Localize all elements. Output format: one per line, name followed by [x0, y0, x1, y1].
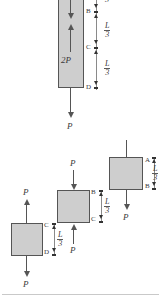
main-bar-tick-D	[94, 81, 98, 85]
figure-canvas: 2P P B C D 3 L 3 L 3 A B L 3	[0, 0, 161, 301]
main-bar-dimension-CD-numerator: L	[104, 60, 110, 68]
main-bar-node-marker-B	[94, 11, 98, 13]
fbd-cd-bottom-force-label: P	[23, 280, 29, 289]
fbd-bc-dimension-numerator: L	[104, 198, 110, 206]
main-bar-upper-internal-arrowhead	[68, 13, 74, 19]
main-bar-bottom-force-arrowhead	[68, 112, 74, 118]
fbd-cd-tick-C	[52, 225, 56, 229]
page-divider-rule	[2, 294, 159, 295]
main-bar-tick-C-upper	[94, 40, 98, 44]
fbd-bc-block	[57, 190, 90, 223]
main-bar-dimension-BC-numerator: L	[104, 22, 110, 30]
fbd-ab-node-label-A: A	[145, 157, 150, 164]
fbd-ab-top-stem	[126, 140, 127, 158]
fbd-cd-bottom-force-arrowhead	[24, 271, 30, 277]
fbd-bc-dimension-denominator: 3	[104, 206, 110, 215]
fbd-ab-bottom-force-label: P	[123, 213, 129, 222]
main-bar-bottom-force-label: P	[67, 122, 73, 131]
fbd-ab-dimension: L 3	[152, 165, 158, 183]
main-bar-tick-B-upper	[94, 4, 98, 8]
fbd-cd-node-marker-D	[52, 254, 56, 256]
main-bar-dimension-CD: L 3	[104, 60, 110, 78]
fbd-cd-dimension: L 3	[57, 231, 63, 249]
fbd-cd-node-label-C: C	[44, 222, 49, 229]
fbd-cd-node-label-D: D	[44, 249, 49, 256]
main-bar-node-label-C: C	[86, 44, 91, 51]
main-bar-partial-top-dimension: 3	[105, 0, 109, 4]
main-bar-dimension-CD-denominator: 3	[104, 68, 110, 77]
fbd-ab-dimension-denominator: 3	[152, 173, 158, 182]
fbd-cd-dimension-denominator: 3	[57, 239, 63, 248]
main-bar-node-label-D: D	[86, 84, 91, 91]
fbd-cd-top-force-line	[26, 203, 27, 223]
fbd-cd-top-force-label: P	[23, 188, 29, 197]
fbd-cd-top-force-arrowhead	[24, 199, 30, 205]
main-bar-tick-B-lower	[94, 14, 98, 18]
fbd-bc-dimension: L 3	[104, 198, 110, 216]
main-bar-dimension-BC: L 3	[104, 22, 110, 40]
fbd-ab-block	[109, 157, 143, 190]
main-bar-node-label-B: B	[86, 8, 91, 15]
fbd-cd-tick-D	[52, 248, 56, 252]
fbd-ab-node-label-B: B	[145, 183, 150, 190]
main-bar-lower-internal-arrowhead	[68, 24, 74, 30]
fbd-bc-tick-C	[99, 215, 103, 219]
fbd-bc-bottom-force-arrowhead	[71, 224, 77, 230]
fbd-ab-node-marker-B	[152, 188, 156, 190]
fbd-bc-node-label-C: C	[91, 216, 96, 223]
fbd-bc-bottom-force-line	[73, 228, 74, 244]
fbd-bc-top-force-label: P	[70, 159, 76, 168]
fbd-cd-dimension-numerator: L	[57, 231, 63, 239]
fbd-cd-block	[11, 223, 43, 256]
main-bar-internal-force-label: 2P	[61, 56, 71, 65]
main-bar-tick-C-lower	[94, 50, 98, 54]
fbd-bc-node-label-B: B	[91, 189, 96, 196]
main-bar-upper-internal-line	[70, 0, 71, 14]
fbd-bc-bottom-force-label: P	[70, 246, 76, 255]
main-bar-dimension-BC-denominator: 3	[104, 30, 110, 39]
main-bar-bottom-force-line	[70, 88, 71, 114]
fbd-ab-bottom-force-arrowhead	[124, 204, 130, 210]
fbd-ab-dimension-numerator: L	[152, 165, 158, 173]
main-bar-node-marker-D	[94, 87, 98, 89]
fbd-bc-node-marker-C	[99, 221, 103, 223]
main-bar-lower-internal-line	[70, 28, 71, 52]
fbd-bc-tick-B	[99, 192, 103, 196]
main-bar-node-marker-C	[94, 47, 98, 49]
fbd-ab-tick-A	[152, 159, 156, 163]
